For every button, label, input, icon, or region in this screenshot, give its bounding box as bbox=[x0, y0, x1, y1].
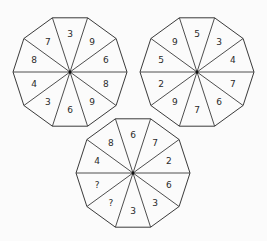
segment-number: 3 bbox=[152, 198, 158, 208]
segment-number: 8 bbox=[108, 138, 114, 148]
segment-number: 6 bbox=[130, 130, 136, 140]
center-dot bbox=[132, 172, 135, 175]
segment-number: 6 bbox=[103, 55, 109, 65]
segment-number: 4 bbox=[31, 79, 37, 89]
segment-number: ? bbox=[109, 198, 114, 208]
decagon-bottom: 672633??48 bbox=[76, 119, 190, 227]
segment-number: 6 bbox=[216, 97, 222, 107]
segment-number: 9 bbox=[172, 37, 178, 47]
segment-number: 7 bbox=[152, 138, 158, 148]
segment-number: 4 bbox=[94, 156, 100, 166]
segment-number: 8 bbox=[31, 55, 37, 65]
center-dot bbox=[69, 71, 72, 74]
segment-number: 9 bbox=[172, 97, 178, 107]
segment-number: 3 bbox=[45, 97, 51, 107]
segment-number: 2 bbox=[166, 156, 172, 166]
decagon-top-left: 3968963487 bbox=[13, 18, 127, 126]
segment-number: 6 bbox=[166, 180, 172, 190]
center-dot bbox=[196, 71, 199, 74]
segment-number: 8 bbox=[103, 79, 109, 89]
segment-number: 7 bbox=[194, 105, 200, 115]
segment-number: 6 bbox=[67, 105, 73, 115]
segment-number: ? bbox=[95, 180, 100, 190]
segment-number: 5 bbox=[158, 55, 164, 65]
decagon-top-right: 5347679259 bbox=[140, 18, 254, 126]
segment-number: 7 bbox=[45, 37, 51, 47]
decagon-puzzle-diagram: 39689634875347679259672633??48 bbox=[0, 0, 267, 241]
segment-number: 3 bbox=[216, 37, 222, 47]
segment-number: 9 bbox=[89, 37, 95, 47]
segment-number: 7 bbox=[230, 79, 236, 89]
segment-number: 3 bbox=[130, 206, 136, 216]
segment-number: 5 bbox=[194, 29, 200, 39]
segment-number: 3 bbox=[67, 29, 73, 39]
segment-number: 9 bbox=[89, 97, 95, 107]
segment-number: 4 bbox=[230, 55, 236, 65]
segment-number: 2 bbox=[158, 79, 164, 89]
